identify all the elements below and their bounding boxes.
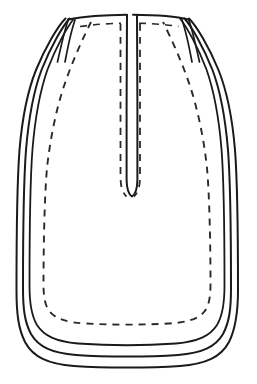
pouch-line-drawing xyxy=(0,0,257,384)
figure-root xyxy=(0,0,257,384)
